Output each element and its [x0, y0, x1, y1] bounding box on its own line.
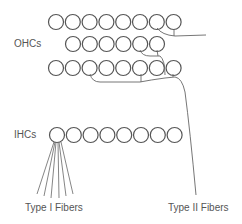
ohc-row-3-cell — [149, 61, 164, 76]
ohc-row-3-cell — [133, 61, 148, 76]
ohc-row-3-cell — [65, 61, 80, 76]
ohc-row-1-cell — [82, 15, 97, 30]
ihc-row-cell — [83, 128, 98, 143]
ohc-row-2-cell — [150, 37, 165, 52]
ihc-row-cell — [50, 128, 65, 143]
cochlea-innervation-diagram — [0, 0, 242, 224]
ohc-row-3-cell — [99, 61, 114, 76]
ohc-row-3-cell — [49, 61, 64, 76]
ohc-row-1-cell — [49, 15, 64, 30]
ohc-row-2-cell — [82, 37, 97, 52]
ihc-row-cell — [66, 128, 81, 143]
type-ii-fibers-label: Type II Fibers — [168, 203, 229, 213]
ohc-row-3-cell — [166, 61, 181, 76]
ohc-row-2-cell — [66, 37, 81, 52]
ohc-row-3-cell — [116, 61, 131, 76]
ihcs-label: IHCs — [14, 130, 36, 140]
ohc-row-1-cell — [133, 15, 148, 30]
ohc-row-2-cell — [133, 37, 148, 52]
ohc-row-1-cell — [99, 15, 114, 30]
ohc-row-1-cell — [149, 15, 164, 30]
ohc-row-2-cell — [99, 37, 114, 52]
ohc-row-1-cell — [166, 15, 181, 30]
ohc-row-1-cell — [116, 15, 131, 30]
type-i-fibers — [37, 142, 73, 198]
ihc-row-cell — [150, 128, 165, 143]
ihc-row-cell — [167, 128, 182, 143]
type-ii-fibers — [90, 28, 206, 195]
ihc-row-cell — [134, 128, 149, 143]
type-i-fibers-label: Type I Fibers — [25, 203, 83, 213]
ohcs-label: OHCs — [14, 39, 41, 49]
ohc-row-2-cell — [116, 37, 131, 52]
ohc-row-1-cell — [65, 15, 80, 30]
ihc-row-cell — [117, 128, 132, 143]
ihc-row-cell — [100, 128, 115, 143]
ohc-row-3-cell — [82, 61, 97, 76]
